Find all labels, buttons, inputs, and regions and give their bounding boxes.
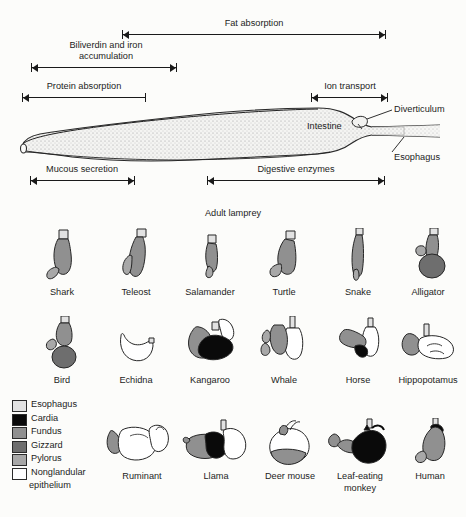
animal-label: Leaf-eating [322,471,398,482]
legend-swatch-cardia [12,414,27,426]
animal-cell-alligator: Alligator [390,228,466,298]
diverticulum-leader-line [367,110,392,119]
bracket-label-biliverdin-iron: Biliverdin and iron accumulation [54,40,158,61]
animal-label: Llama [178,471,254,482]
legend-label: Gizzard [31,440,63,451]
kangaroo-stomach-art [172,316,248,374]
legend-label: Pylorus [31,453,62,464]
animal-label: Hippopotamus [390,375,466,386]
legend-swatch-gizzard [12,441,27,453]
legend-item-pylorus: Pylorus [12,453,112,466]
animal-cell-whale: Whale [246,316,322,386]
animal-label: Whale [246,375,322,386]
salamander-stomach-art [172,228,248,286]
horse-stomach-art [320,316,396,374]
animal-label: Shark [24,287,100,298]
legend-swatch-fundus [12,427,27,439]
legend-swatch-esophagus [12,400,27,412]
leaf-eating-monkey-stomach-art [322,418,398,470]
bracket-biliverdin-iron [31,63,177,72]
echidna-stomach-art [98,316,174,374]
bracket-label-digestive-enzymes: Digestive enzymes [257,164,334,175]
legend-item-fundus: Fundus [12,426,112,439]
animal-cell-snake: Snake [320,228,396,298]
ruminant-stomach-art [104,418,180,470]
legend-item-esophagus: Esophagus [12,399,112,412]
animal-label: Kangaroo [172,375,248,386]
animal-cell-salamander: Salamander [172,228,248,298]
legend-swatch-pylorus [12,454,27,466]
legend-swatch-nonglandular [12,468,27,480]
animal-cell-hippopotamus: Hippopotamus [390,316,466,386]
snake-stomach-art [320,228,396,286]
whale-stomach-art [246,316,322,374]
bracket-mucous-secretion [30,176,135,185]
shark-stomach-art [24,228,100,286]
animal-cell-llama: Llama [178,418,254,482]
animal-label: Teleost [98,287,174,298]
animal-label: Deer mouse [252,471,328,482]
legend-label: Esophagus [31,399,77,410]
lamprey-gut-body [21,108,405,161]
animal-cell-deer-mouse: Deer mouse [252,418,328,482]
bracket-fat-absorption [122,30,386,39]
bracket-label-ion-transport: Ion transport [324,81,376,92]
animal-label: Alligator [390,287,466,298]
animal-label: Human [392,471,466,482]
animal-cell-teleost: Teleost [98,228,174,298]
animal-cell-bird: Bird [24,316,100,386]
legend-item-nonglandular: Nonglandular [12,467,112,480]
legend-item-gizzard: Gizzard [12,440,112,453]
llama-stomach-art [178,418,254,470]
legend-item-cardia: Cardia [12,413,112,426]
esophagus-shape [372,125,440,137]
teleost-stomach-art [98,228,174,286]
legend-label-nonglandular-line2: epithelium [29,480,112,491]
animal-label: Ruminant [104,471,180,482]
legend-label: Cardia [31,413,58,424]
hippopotamus-stomach-art [390,316,466,374]
animal-cell-leaf-eating-monkey: Leaf-eating monkey [322,418,398,493]
bracket-protein-absorption [22,93,146,102]
bracket-label-fat-absorption: Fat absorption [225,18,284,29]
animal-cell-human: Human [392,418,466,482]
bracket-digestive-enzymes [207,176,385,185]
comparative-digestive-anatomy-figure: Intestine Diverticulum Esophagus Fat abs… [0,0,466,517]
label-diverticulum: Diverticulum [394,104,445,115]
animal-cell-echidna: Echidna [98,316,174,386]
animal-label: Salamander [172,287,248,298]
human-stomach-art [392,418,466,470]
animal-label: Bird [24,375,100,386]
bird-stomach-art [24,316,100,374]
turtle-stomach-art [246,228,322,286]
animal-label: Horse [320,375,396,386]
legend: Esophagus Cardia Fundus Gizzard Pylorus … [12,399,112,491]
legend-label: Fundus [31,426,62,437]
animal-cell-shark: Shark [24,228,100,298]
bracket-label-protein-absorption: Protein absorption [47,81,122,92]
bracket-label-mucous-secretion: Mucous secretion [46,164,118,175]
animal-label-line2: monkey [322,483,398,494]
caption-adult-lamprey: Adult lamprey [205,208,261,219]
animal-label: Echidna [98,375,174,386]
animal-label: Snake [320,287,396,298]
label-intestine: Intestine [307,121,342,132]
animal-cell-turtle: Turtle [246,228,322,298]
label-esophagus: Esophagus [394,152,440,163]
esophagus-leader-line [392,137,404,152]
animal-cell-horse: Horse [320,316,396,386]
bracket-ion-transport [311,93,388,102]
animal-cell-kangaroo: Kangaroo [172,316,248,386]
deer-mouse-stomach-art [252,418,328,470]
animal-label: Turtle [246,287,322,298]
legend-label: Nonglandular [31,467,86,478]
animal-cell-ruminant: Ruminant [104,418,180,482]
alligator-stomach-art [390,228,466,286]
